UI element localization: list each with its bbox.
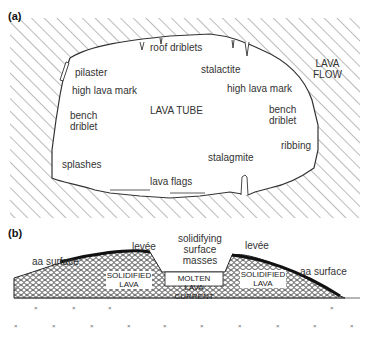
svg-text:×: × bbox=[313, 323, 317, 329]
solidified-lava-left-box: SOLIDIFIED LAVA bbox=[106, 271, 152, 289]
solidified-right-line1: SOLIDIFIED bbox=[240, 270, 286, 279]
label-lava-flow: LAVA FLOW bbox=[313, 58, 342, 80]
label-bench-right-line1: bench bbox=[269, 104, 296, 115]
label-solidifying-line2: surface bbox=[178, 244, 222, 255]
label-levee-left: levée bbox=[132, 241, 156, 252]
svg-text:×: × bbox=[14, 285, 18, 291]
svg-text:×: × bbox=[90, 323, 94, 329]
label-solidifying-line3: masses bbox=[178, 255, 222, 266]
label-lava-tube: LAVA TUBE bbox=[150, 105, 203, 116]
solidified-lava-right-box: SOLIDIFIED LAVA bbox=[240, 270, 286, 288]
label-roof-driblets: roof driblets bbox=[150, 42, 202, 53]
label-solidifying-surface-masses: solidifying surface masses bbox=[178, 233, 222, 266]
label-bench-left-line2: driblet bbox=[70, 121, 97, 132]
label-lava-flags: lava flags bbox=[150, 176, 192, 187]
svg-text:×: × bbox=[72, 305, 76, 311]
label-bench-driblet-right: bench driblet bbox=[269, 104, 296, 126]
label-aa-surface-right: aa surface bbox=[300, 266, 347, 277]
svg-text:×: × bbox=[238, 323, 242, 329]
label-bench-left-line1: bench bbox=[70, 110, 97, 121]
solidified-left-line1: SOLIDIFIED bbox=[106, 271, 152, 280]
svg-text:×: × bbox=[330, 305, 334, 311]
label-levee-right: levée bbox=[245, 240, 269, 251]
panel-a-tag: (a) bbox=[8, 10, 21, 22]
svg-text:×: × bbox=[34, 305, 38, 311]
solidified-left-line2: LAVA bbox=[106, 280, 152, 289]
label-pilaster: pilaster bbox=[75, 67, 107, 78]
label-aa-surface-left: aa surface bbox=[32, 256, 79, 267]
molten-line2: CURRENT bbox=[167, 292, 221, 301]
svg-text:×: × bbox=[350, 323, 354, 329]
label-splashes: splashes bbox=[62, 159, 101, 170]
label-high-lava-mark-left: high lava mark bbox=[72, 85, 137, 96]
label-bench-driblet-left: bench driblet bbox=[70, 110, 97, 132]
label-stalagmite: stalagmite bbox=[208, 152, 254, 163]
solidified-right-line2: LAVA bbox=[240, 279, 286, 288]
label-stalactite: stalactite bbox=[201, 64, 240, 75]
label-ribbing: ribbing bbox=[281, 140, 311, 151]
svg-text:×: × bbox=[52, 323, 56, 329]
stalagmite-shape bbox=[241, 175, 248, 195]
label-lava-flow-line2: FLOW bbox=[313, 69, 342, 80]
svg-text:×: × bbox=[108, 305, 112, 311]
label-bench-right-line2: driblet bbox=[269, 115, 296, 126]
svg-text:×: × bbox=[127, 323, 131, 329]
molten-line1: MOLTEN LAVA bbox=[167, 274, 221, 292]
label-lava-flow-line1: LAVA bbox=[313, 58, 342, 69]
molten-lava-current-box: MOLTEN LAVA CURRENT bbox=[167, 274, 221, 301]
label-solidifying-line1: solidifying bbox=[178, 233, 222, 244]
label-high-lava-mark-right: high lava mark bbox=[227, 83, 292, 94]
svg-text:×: × bbox=[14, 323, 18, 329]
svg-text:×: × bbox=[276, 323, 280, 329]
svg-text:×: × bbox=[163, 323, 167, 329]
svg-text:×: × bbox=[200, 323, 204, 329]
panel-b-tag: (b) bbox=[8, 227, 22, 239]
